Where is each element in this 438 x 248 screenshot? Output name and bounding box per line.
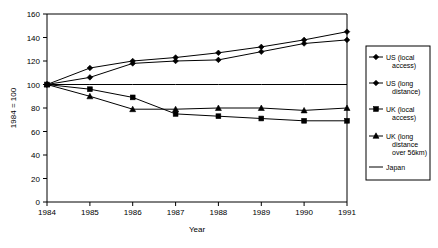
y-tick-group: 120 [27, 57, 47, 66]
y-tick-group: 20 [31, 175, 47, 184]
y-tick-label: 160 [27, 10, 41, 19]
series-group [44, 29, 350, 123]
legend-label-cont: access) [392, 62, 416, 70]
x-tick-label: 1990 [295, 208, 313, 217]
y-tick-group: 40 [31, 151, 47, 160]
y-tick-label: 120 [27, 57, 41, 66]
x-tick-group: 1984 [38, 202, 56, 217]
x-tick-group: 1990 [295, 202, 313, 217]
x-tick-group: 1988 [210, 202, 228, 217]
y-axis-title: 1984 = 100 [9, 87, 18, 128]
y-tick-label: 140 [27, 34, 41, 43]
legend-label: US (local [386, 54, 415, 62]
x-tick-label: 1986 [124, 208, 142, 217]
y-tick-label: 80 [31, 104, 40, 113]
chart-screenshot: 0 20 40 60 80 100 120 140 160 1984 1985 … [0, 0, 438, 248]
x-tick-label: 1985 [81, 208, 99, 217]
series-markers-uk-local-access [45, 82, 350, 123]
line-chart: 0 20 40 60 80 100 120 140 160 1984 1985 … [0, 0, 438, 248]
x-axis-title: Year [189, 225, 206, 234]
legend-label: Japan [386, 164, 405, 172]
legend-label: UK (local [386, 106, 415, 114]
legend-label-cont2: over 56km) [392, 149, 427, 157]
y-tick-group: 0 [36, 198, 47, 207]
x-axis-ticks: 1984 1985 1986 1987 1988 1989 1990 1991 [38, 202, 356, 217]
x-tick-label: 1988 [210, 208, 228, 217]
y-tick-group: 160 [27, 10, 47, 19]
x-tick-group: 1989 [252, 202, 270, 217]
legend-label-cont: access) [392, 114, 416, 122]
x-tick-group: 1986 [124, 202, 142, 217]
y-tick-group: 140 [27, 34, 47, 43]
chart-legend: US (local access) US (long distance) UK … [366, 46, 430, 180]
series-markers-us-long-distance [44, 37, 350, 87]
legend-label-cont: distance [392, 141, 418, 148]
x-tick-group: 1985 [81, 202, 99, 217]
y-axis-ticks: 0 20 40 60 80 100 120 140 160 [27, 10, 47, 207]
legend-label: US (long [386, 80, 413, 88]
x-tick-label: 1987 [167, 208, 185, 217]
y-tick-label: 40 [31, 151, 40, 160]
chart-svg: 0 20 40 60 80 100 120 140 160 1984 1985 … [0, 0, 438, 248]
x-tick-group: 1987 [167, 202, 185, 217]
y-tick-group: 80 [31, 104, 47, 113]
y-tick-label: 100 [27, 81, 41, 90]
x-tick-label: 1989 [252, 208, 270, 217]
square-marker-icon [374, 107, 379, 112]
y-tick-label: 20 [31, 175, 40, 184]
plot-frame [47, 14, 347, 202]
y-tick-group: 60 [31, 128, 47, 137]
legend-label-cont: distance) [392, 88, 420, 96]
y-tick-label: 60 [31, 128, 40, 137]
x-tick-label: 1984 [38, 208, 56, 217]
x-tick-label: 1991 [338, 208, 356, 217]
legend-label: UK (long [386, 133, 413, 141]
y-tick-label: 0 [36, 198, 41, 207]
y-tick-group: 100 [27, 81, 47, 90]
x-tick-group: 1991 [338, 202, 356, 217]
